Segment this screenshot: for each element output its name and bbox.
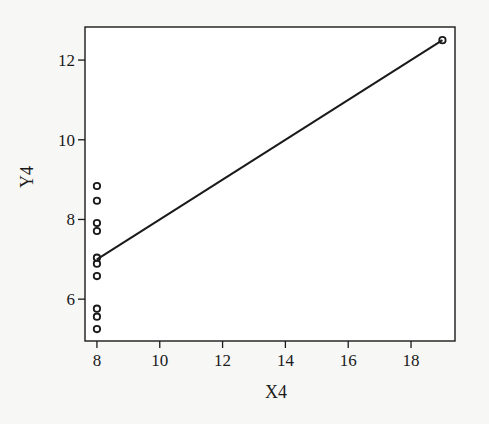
x-axis-label: X4 xyxy=(265,382,287,402)
y-axis-label: Y4 xyxy=(17,166,37,188)
plot-frame xyxy=(85,27,455,341)
x-tick-label: 8 xyxy=(93,351,102,370)
y-tick-label: 6 xyxy=(67,290,76,309)
x-tick-label: 14 xyxy=(277,351,295,370)
y-tick-label: 12 xyxy=(58,51,75,70)
x-axis-ticks: 81012141618 xyxy=(93,341,420,370)
y-axis-ticks: 681012 xyxy=(58,51,85,309)
x-tick-label: 16 xyxy=(340,351,357,370)
scatter-chart: 81012141618 681012 X4 Y4 xyxy=(0,0,489,424)
y-tick-label: 8 xyxy=(67,210,76,229)
plot-area-border xyxy=(85,27,455,341)
x-tick-label: 18 xyxy=(403,351,420,370)
x-tick-label: 12 xyxy=(214,351,231,370)
y-tick-label: 10 xyxy=(58,131,75,150)
x-tick-label: 10 xyxy=(151,351,168,370)
